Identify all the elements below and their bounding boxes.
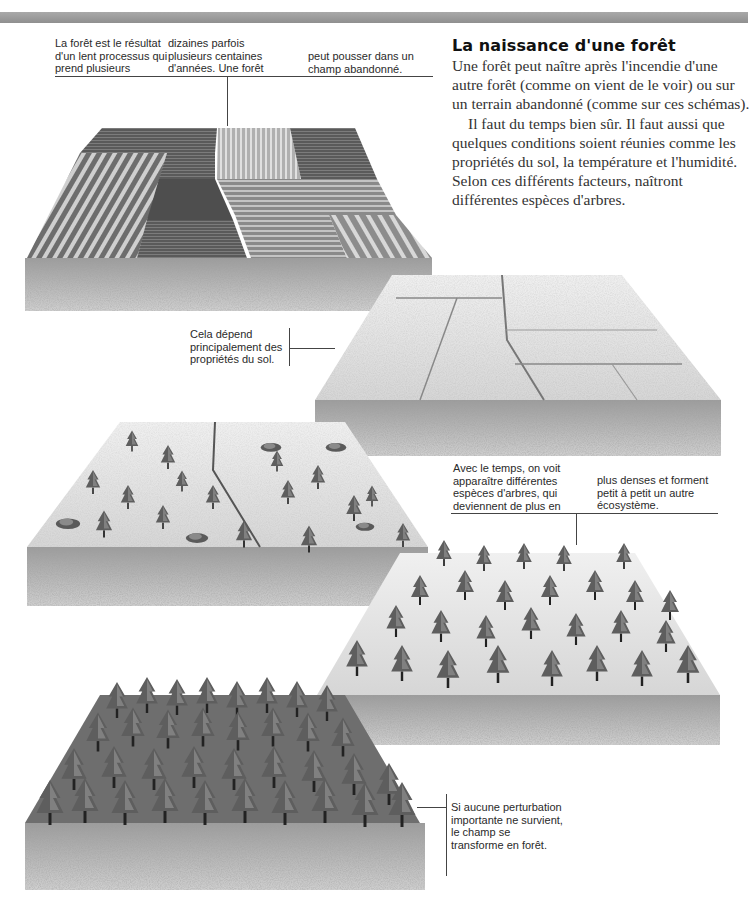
header-bar [0,12,748,23]
caption-intro-col2: dizaines parfois plusieurs centaines d'a… [168,37,264,75]
article-body: Une forêt peut naître après l'incendie d… [452,56,752,210]
caption-final-bracket [446,794,447,876]
article-paragraph: Il faut du temps bien sûr. Il faut aussi… [452,114,752,210]
article-title: La naissance d'une forêt [452,36,676,55]
caption-soil: Cela dépend principalement des propriété… [190,328,282,366]
caption-species-rule [451,513,718,514]
caption-intro-col3: peut pousser dans un champ abandonné. [308,50,414,75]
article-paragraph: Une forêt peut naître après l'incendie d… [452,56,752,114]
caption-intro-col1: La forêt est le résultat d'un lent proce… [55,37,167,75]
caption-species-col2: plus denses et forment petit à petit un … [597,474,708,512]
caption-pointer-line [227,76,228,126]
caption-species-col1: Avec le temps, on voit apparaître différ… [453,462,561,512]
caption-soil-bracket [289,328,290,366]
caption-rule [55,76,433,77]
caption-final: Si aucune perturbation importante ne sur… [451,801,563,851]
caption-final-pointer [417,807,447,808]
illustration-mature-forest [25,665,425,895]
